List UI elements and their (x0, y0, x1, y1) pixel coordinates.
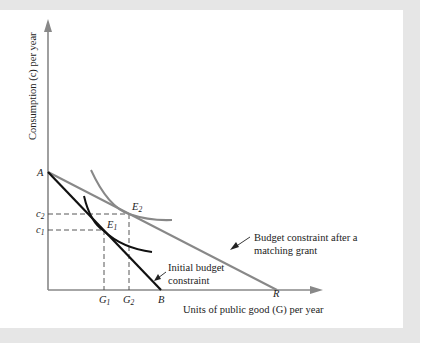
indifference-curve-2 (91, 170, 172, 220)
matching-grant-budget-line (48, 172, 277, 290)
y-axis-arrow-icon (44, 19, 52, 32)
x-axis-label: Units of public good (G) per year (183, 304, 324, 316)
point-b-label: B (158, 294, 165, 305)
budget-constraint-diagram: A E1 E2 B R c2 c1 G1 G2 Consumption (c) … (0, 0, 426, 355)
x-axis-arrow-icon (310, 286, 323, 294)
point-e1-label: E1 (106, 219, 117, 232)
matching-annotation-line2: matching grant (254, 245, 317, 256)
point-a-label: A (36, 167, 44, 178)
matching-annotation-arrow-icon (230, 242, 239, 250)
initial-annotation-line1: Initial budget (168, 262, 224, 273)
y-axis-label: Consumption (c) per year (27, 32, 39, 140)
point-r-label: R (272, 288, 280, 299)
initial-annotation-line2: constraint (168, 275, 209, 286)
point-e2-label: E2 (131, 201, 142, 214)
g2-tick-label: G2 (123, 294, 135, 307)
c1-tick-label: c1 (36, 224, 44, 237)
matching-annotation-line1: Budget constraint after a (254, 232, 358, 243)
initial-annotation-arrow-icon (154, 274, 161, 281)
c2-tick-label: c2 (36, 208, 45, 221)
g1-tick-label: G1 (99, 294, 110, 307)
